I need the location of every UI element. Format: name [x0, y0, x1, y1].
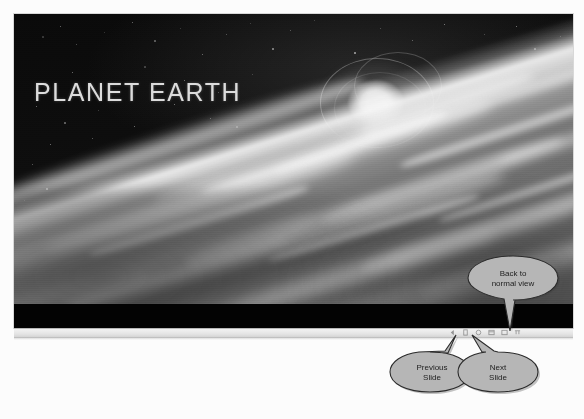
callout-back-to-normal-view: Back to normal view	[463, 254, 563, 336]
callout-next-slide: Next Slide	[452, 334, 544, 400]
screenshot-canvas: PLANET EARTH Back to	[0, 0, 584, 419]
slide-title: PLANET EARTH	[34, 78, 241, 107]
